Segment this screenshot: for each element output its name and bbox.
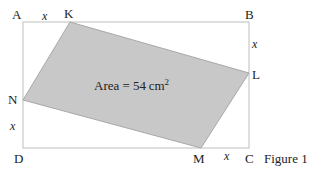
vertex-a-label: A (12, 8, 21, 21)
vertex-n-label: N (8, 93, 17, 106)
vertex-k-label: K (64, 7, 73, 20)
vertex-d-label: D (14, 152, 23, 165)
area-value: Area = 54 (94, 78, 146, 93)
var-bl-label: x (252, 38, 257, 50)
var-cm-label: x (224, 150, 229, 162)
var-dn-label: x (10, 120, 15, 132)
figure-caption: Figure 1 (264, 152, 308, 165)
area-annotation: Area = 54 cm2 (94, 77, 169, 94)
var-ak-label: x (42, 10, 47, 22)
area-unit: cm (149, 78, 165, 93)
vertex-l-label: L (252, 68, 260, 81)
vertex-b-label: B (245, 8, 254, 21)
vertex-m-label: M (193, 152, 205, 165)
area-exponent: 2 (165, 77, 170, 87)
vertex-c-label: C (245, 152, 254, 165)
